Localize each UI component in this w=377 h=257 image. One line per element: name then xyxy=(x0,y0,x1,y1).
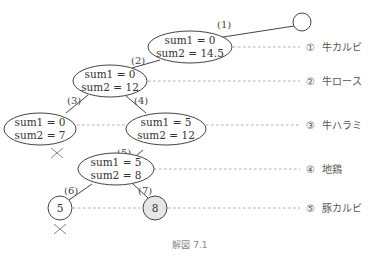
leaf-value: 8 xyxy=(152,202,159,214)
node-sum2: sum2 = 12 xyxy=(137,129,195,141)
level-num-1: ① xyxy=(306,42,315,53)
node-sum2: sum2 = 12 xyxy=(81,81,139,93)
edge-1 xyxy=(223,26,294,37)
tree-node-5: sum1 = 5 sum2 = 8 xyxy=(78,153,154,185)
node-sum1: sum1 = 0 xyxy=(85,68,136,80)
level-name-5: 豚カルビ xyxy=(322,203,362,214)
level-labels: ① 牛カルビ ② 牛ロース ③ 牛ハラミ ④ 地鶏 ⑤ 豚カルビ xyxy=(306,41,362,214)
figure-caption: 解図 7.1 xyxy=(172,239,207,250)
edge-label-1: (1) xyxy=(217,19,231,30)
start-node xyxy=(293,13,311,31)
edge-label-7: (7) xyxy=(138,185,152,196)
node-sum2: sum2 = 7 xyxy=(15,129,66,141)
level-num-3: ③ xyxy=(306,120,315,131)
node-sum2: sum2 = 8 xyxy=(91,169,142,181)
tree-node-root: sum1 = 0 sum2 = 14.5 xyxy=(148,31,232,63)
level-num-4: ④ xyxy=(306,164,315,175)
node-sum1: sum1 = 5 xyxy=(141,116,192,128)
node-sum2: sum2 = 14.5 xyxy=(156,47,224,59)
level-name-2: 牛ロース xyxy=(322,75,362,87)
level-num-5: ⑤ xyxy=(306,203,315,214)
level-name-1: 牛カルビ xyxy=(322,41,362,53)
edge-label-4: (4) xyxy=(134,95,148,106)
tree-node-2: sum1 = 0 sum2 = 12 xyxy=(73,65,147,97)
tree-node-4: sum1 = 5 sum2 = 12 xyxy=(126,113,206,145)
search-tree-diagram: (1) (2) (3) (4) (5) (6) (7) sum1 = 0 sum… xyxy=(0,0,377,257)
node-sum1: sum1 = 0 xyxy=(165,34,216,46)
leaf-node-left: 5 xyxy=(48,196,72,220)
leaf-value: 5 xyxy=(57,202,64,214)
node-sum1: sum1 = 5 xyxy=(91,156,142,168)
tree-node-3: sum1 = 0 sum2 = 7 xyxy=(4,113,76,145)
cross-icon xyxy=(54,224,66,234)
level-name-4: 地鶏 xyxy=(322,163,342,175)
level-num-2: ② xyxy=(306,76,315,87)
level-name-3: 牛ハラミ xyxy=(322,119,362,131)
cross-icon xyxy=(51,148,63,158)
leaf-node-right: 8 xyxy=(143,196,167,220)
node-sum1: sum1 = 0 xyxy=(15,116,66,128)
edge-label-6: (6) xyxy=(64,185,78,196)
edge-label-2: (2) xyxy=(131,55,145,66)
edge-label-3: (3) xyxy=(67,95,81,106)
